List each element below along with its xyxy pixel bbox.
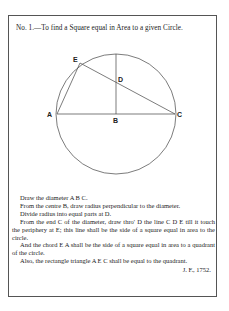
label-a: A [47, 111, 52, 118]
label-e: E [73, 56, 78, 63]
paragraph: From the centre B, draw radius perpendic… [12, 202, 215, 210]
paragraph: From the end C of the diameter, draw thr… [12, 218, 215, 242]
paragraph: Draw the diameter A B C. [12, 194, 215, 202]
paragraph: And the chord E A shall be the side of a… [12, 241, 215, 257]
paragraph: Also, the rectangle triangle A E C shall… [12, 257, 215, 265]
label-d: D [118, 76, 123, 83]
signature: J. F., 1752. [12, 266, 215, 274]
instructions: Draw the diameter A B C. From the centre… [12, 194, 215, 274]
label-c: C [177, 111, 182, 118]
chord-ea [57, 63, 80, 114]
line-cde [80, 63, 175, 114]
label-b: B [113, 117, 118, 124]
paragraph: Divide radius into equal parts at D. [12, 210, 215, 218]
